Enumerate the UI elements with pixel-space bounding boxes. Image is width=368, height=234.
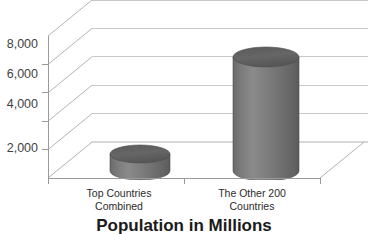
plot-area	[48, 0, 368, 181]
chart-canvas: 8,000 6,000 4,000 2,000 Top Countries Co…	[0, 0, 368, 234]
gridline-8000	[48, 28, 368, 64]
chart-title: Population in Millions	[96, 216, 272, 234]
gridline-2000	[48, 114, 368, 150]
gridline-6000	[48, 57, 368, 93]
x-axis-category-label-0: Top Countries Combined	[87, 187, 152, 212]
cylinder-bar-chart: 8,000 6,000 4,000 2,000 Top Countries Co…	[0, 0, 368, 234]
bar-body	[233, 57, 299, 181]
cat1-line1: Countries	[230, 200, 275, 212]
y-axis-label-8000: 8,000	[7, 37, 38, 51]
y-axis	[42, 36, 48, 178]
gridline-4000	[48, 85, 368, 121]
y-axis-label-6000: 6,000	[7, 67, 38, 81]
gridline-10000	[48, 0, 368, 36]
y-axis-label-2000: 2,000	[7, 141, 38, 155]
y-axis-label-4000: 4,000	[7, 97, 38, 111]
floor-plane	[48, 142, 368, 178]
cat1-line0: The Other 200	[218, 187, 286, 199]
cat0-line0: Top Countries	[87, 187, 152, 199]
cat0-line1: Combined	[95, 200, 143, 212]
bar-top-countries-combined[interactable]	[110, 145, 170, 180]
x-axis-category-label-1: The Other 200 Countries	[218, 187, 286, 212]
bar-the-other-200-countries[interactable]	[233, 47, 299, 181]
